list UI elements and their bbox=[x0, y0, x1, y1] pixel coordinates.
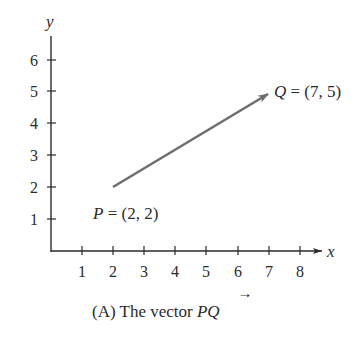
point-p-label: P = (2, 2) bbox=[92, 204, 158, 223]
x-axis: x 1 2 3 4 5 6 7 8 bbox=[51, 242, 335, 280]
x-tick-label: 6 bbox=[234, 263, 242, 280]
x-tick-label: 1 bbox=[78, 263, 86, 280]
y-tick-label: 1 bbox=[30, 211, 38, 228]
vector-pq-arrow bbox=[113, 94, 268, 187]
point-q-label: Q = (7, 5) bbox=[274, 82, 341, 101]
x-tick-label: 2 bbox=[109, 263, 117, 280]
y-tick-label: 4 bbox=[30, 115, 38, 132]
x-tick-label: 4 bbox=[171, 263, 179, 280]
x-tick-label: 7 bbox=[265, 263, 273, 280]
y-axis-label: y bbox=[44, 12, 54, 31]
y-tick-label: 3 bbox=[30, 147, 38, 164]
y-tick-label: 2 bbox=[30, 179, 38, 196]
x-tick-label: 3 bbox=[140, 263, 148, 280]
x-tick-label: 5 bbox=[202, 263, 210, 280]
figure-caption: (A) The vector PQ bbox=[92, 302, 220, 321]
vector-arrow-icon: → bbox=[238, 285, 253, 301]
y-axis: y 1 2 3 4 5 6 bbox=[30, 12, 56, 252]
x-tick-label: 8 bbox=[296, 263, 304, 280]
y-tick-label: 5 bbox=[30, 83, 38, 100]
y-tick-label: 6 bbox=[30, 52, 38, 69]
vector-diagram: y 1 2 3 4 5 6 x 1 2 3 4 5 6 7 8 bbox=[0, 0, 362, 348]
caption-vector-name: PQ bbox=[196, 302, 220, 321]
x-axis-label: x bbox=[326, 242, 335, 261]
